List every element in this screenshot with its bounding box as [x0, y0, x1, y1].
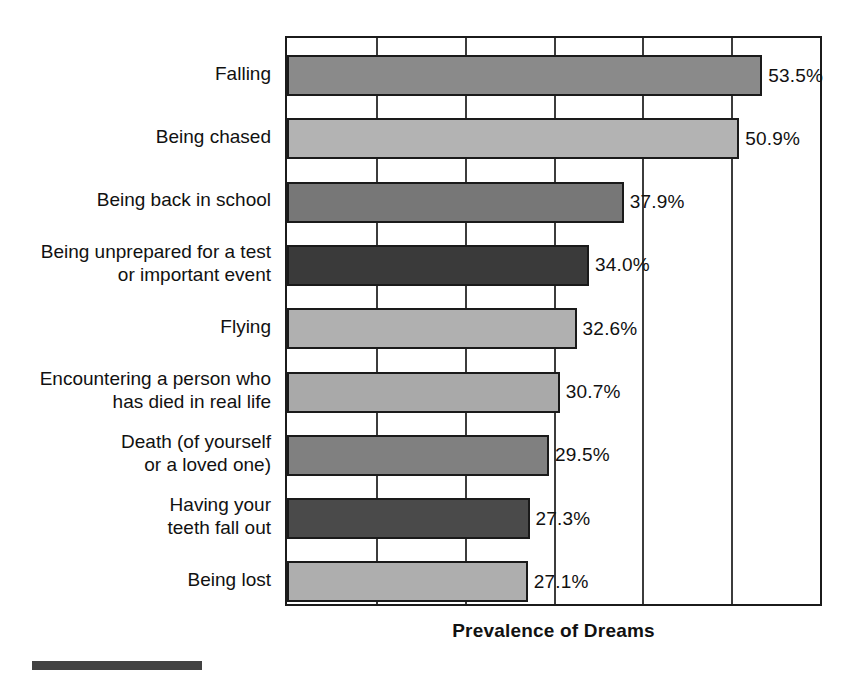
- bar-row: 32.6%: [287, 308, 820, 349]
- bars-group: 53.5%50.9%37.9%34.0%32.6%30.7%29.5%27.3%…: [287, 38, 820, 604]
- bar[interactable]: [287, 561, 528, 602]
- plot-area: 53.5%50.9%37.9%34.0%32.6%30.7%29.5%27.3%…: [285, 36, 822, 606]
- category-label: Falling: [215, 62, 271, 85]
- bar-value-label: 50.9%: [745, 128, 800, 150]
- bar-row: 53.5%: [287, 55, 820, 96]
- category-label: Flying: [220, 315, 271, 338]
- bar[interactable]: [287, 435, 549, 476]
- category-label: Being lost: [188, 568, 271, 591]
- category-label: Being chased: [156, 125, 271, 148]
- bar-row: 27.1%: [287, 561, 820, 602]
- category-label: Being unprepared for a test or important…: [41, 240, 271, 286]
- bar[interactable]: [287, 245, 589, 286]
- bar-row: 37.9%: [287, 182, 820, 223]
- bar-row: 29.5%: [287, 435, 820, 476]
- bar[interactable]: [287, 118, 739, 159]
- bar-value-label: 32.6%: [583, 318, 638, 340]
- bar[interactable]: [287, 498, 530, 539]
- bar-row: 27.3%: [287, 498, 820, 539]
- bar-chart-figure: FallingBeing chasedBeing back in schoolB…: [0, 0, 852, 673]
- category-axis-labels: FallingBeing chasedBeing back in schoolB…: [0, 36, 279, 606]
- x-axis-title: Prevalence of Dreams: [285, 620, 822, 642]
- bar-value-label: 27.3%: [536, 508, 591, 530]
- bar-row: 34.0%: [287, 245, 820, 286]
- footer-rule: [32, 661, 202, 670]
- bar-value-label: 29.5%: [555, 444, 610, 466]
- bar-value-label: 53.5%: [768, 65, 823, 87]
- category-label: Being back in school: [97, 188, 271, 211]
- bar[interactable]: [287, 55, 762, 96]
- bar-value-label: 37.9%: [630, 191, 685, 213]
- category-label: Having your teeth fall out: [167, 493, 271, 539]
- category-label: Encountering a person who has died in re…: [40, 367, 271, 413]
- bar[interactable]: [287, 372, 560, 413]
- bar[interactable]: [287, 182, 624, 223]
- category-label: Death (of yourself or a loved one): [121, 430, 271, 476]
- bar[interactable]: [287, 308, 577, 349]
- bar-row: 50.9%: [287, 118, 820, 159]
- bar-value-label: 30.7%: [566, 381, 621, 403]
- bar-value-label: 34.0%: [595, 254, 650, 276]
- bar-value-label: 27.1%: [534, 571, 589, 593]
- bar-row: 30.7%: [287, 372, 820, 413]
